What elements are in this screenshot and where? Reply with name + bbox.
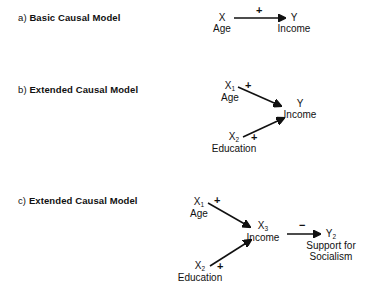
- panel-a-title: Basic Causal Model: [29, 12, 120, 23]
- panel-c-prefix: c): [18, 195, 26, 206]
- node-c-support-name-line2: Socialism: [303, 251, 359, 262]
- node-b-income: Y Income: [277, 98, 323, 120]
- node-c-education-name: Education: [169, 272, 231, 283]
- sign-b-age-income: +: [245, 80, 251, 91]
- node-b-education-name: Education: [203, 143, 265, 154]
- node-a-age: X Age: [200, 12, 244, 34]
- node-a-income-name: Income: [272, 23, 316, 34]
- node-c-age-name: Age: [174, 208, 224, 219]
- node-b-income-name: Income: [277, 109, 323, 120]
- node-a-income-var: Y: [272, 12, 316, 23]
- node-a-age-var: X: [200, 12, 244, 23]
- node-c-income: X3 Income: [240, 220, 286, 243]
- panel-c-title: Extended Causal Model: [29, 195, 138, 206]
- sign-b-education-income: +: [251, 132, 257, 143]
- panel-a-prefix: a): [18, 12, 27, 23]
- panel-b-prefix: b): [18, 84, 27, 95]
- panel-c-label: c) Extended Causal Model: [18, 195, 138, 206]
- panel-b-title: Extended Causal Model: [29, 84, 138, 95]
- node-c-support-name-line1: Support for: [303, 240, 359, 251]
- node-a-age-name: Age: [200, 23, 244, 34]
- panel-b-label: b) Extended Causal Model: [18, 84, 138, 95]
- node-b-income-var: Y: [277, 98, 323, 109]
- node-c-support-var: Y2: [303, 228, 359, 240]
- node-b-age-name: Age: [203, 92, 257, 103]
- causal-model-figure: a) Basic Causal Model X Age + Y Income b…: [0, 0, 365, 297]
- sign-c-age-income: +: [214, 195, 220, 206]
- node-c-income-var: X3: [240, 220, 286, 232]
- node-a-income: Y Income: [272, 12, 316, 34]
- sign-c-education-income: +: [217, 261, 223, 272]
- node-c-income-name: Income: [240, 232, 286, 243]
- sign-a-age-income: +: [256, 5, 262, 16]
- node-c-support: Y2 Support for Socialism: [303, 228, 359, 262]
- panel-a-label: a) Basic Causal Model: [18, 12, 120, 23]
